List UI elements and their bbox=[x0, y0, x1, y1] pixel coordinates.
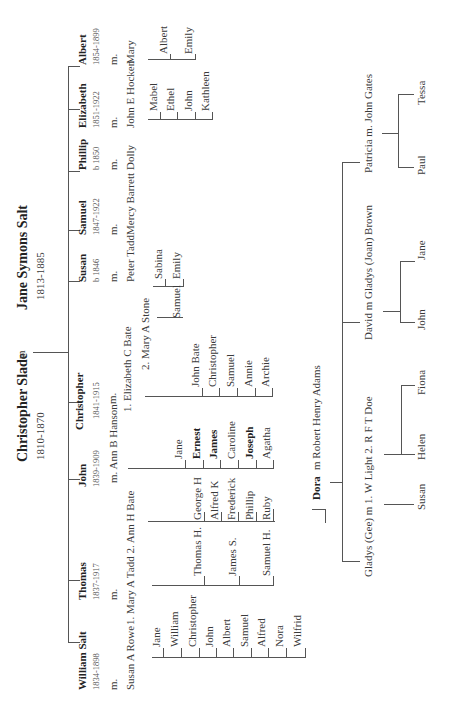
tree-connector-line bbox=[398, 167, 414, 168]
person-label-c6-m: m. bbox=[108, 159, 119, 170]
tree-connector-line bbox=[305, 648, 306, 658]
tree-connector-line bbox=[273, 460, 274, 469]
person-label-w1: William bbox=[169, 611, 180, 647]
person-label-c0-dates: 1834-1898 bbox=[92, 653, 101, 690]
person-label-c1-spouse: 1. Mary A Tadd 2. Ann H Bate bbox=[125, 491, 136, 625]
tree-connector-line bbox=[160, 112, 161, 120]
person-label-j0: Jane bbox=[173, 439, 184, 459]
person-label-t0: Thomas H. bbox=[192, 527, 203, 576]
person-label-a1: Alfred K bbox=[209, 481, 220, 520]
tree-connector-line bbox=[384, 454, 401, 455]
person-label-c4-name: Susan bbox=[77, 254, 88, 282]
tree-connector-line bbox=[128, 468, 274, 469]
person-label-root-husband: Christopher Slade bbox=[16, 353, 30, 462]
tree-connector-line bbox=[145, 396, 273, 397]
person-label-w8: Wilfrid bbox=[292, 615, 303, 647]
person-label-s0: Sabina bbox=[153, 249, 164, 279]
person-label-g-h: Helen bbox=[416, 434, 427, 460]
tree-connector-line bbox=[255, 388, 256, 397]
person-label-root-m: m bbox=[16, 350, 27, 359]
person-label-c7-name: Elizabeth bbox=[77, 83, 88, 128]
person-label-d: David m Gladys (Joan) Brown bbox=[363, 205, 374, 340]
tree-connector-line bbox=[325, 510, 326, 523]
tree-connector-line bbox=[152, 657, 306, 658]
person-label-g: Gladys (Gee) m 1. W Light 2. R F T Doe bbox=[363, 396, 374, 577]
tree-connector-line bbox=[148, 59, 195, 60]
person-label-w3: John bbox=[204, 626, 215, 647]
tree-connector-line bbox=[202, 388, 203, 397]
tree-connector-line bbox=[251, 648, 252, 658]
tree-connector-line bbox=[212, 112, 213, 120]
person-label-c8-m: m. bbox=[108, 54, 119, 65]
person-label-dora-spouse: m Robert Henry Adams bbox=[311, 365, 322, 470]
tree-connector-line bbox=[401, 385, 415, 386]
person-label-p-t: Tessa bbox=[416, 81, 427, 105]
person-label-j4: Joseph bbox=[244, 427, 255, 459]
person-label-e0: Mabel bbox=[148, 83, 159, 111]
tree-connector-line bbox=[165, 279, 166, 287]
tree-connector-line bbox=[401, 454, 415, 455]
person-label-k1: Christopher bbox=[207, 335, 218, 387]
person-label-c2-dates: 1839-1909 bbox=[92, 450, 101, 487]
tree-connector-line bbox=[342, 162, 360, 163]
person-label-c8-dates: 1854-1899 bbox=[92, 28, 101, 65]
tree-connector-line bbox=[233, 648, 234, 658]
person-label-a2: Frederick bbox=[226, 478, 237, 520]
person-label-c6-spouse: Dolly bbox=[125, 145, 136, 170]
person-label-e2: John bbox=[183, 90, 194, 111]
person-label-c4-m: m. bbox=[108, 271, 119, 282]
tree-connector-line bbox=[195, 112, 196, 120]
person-label-j5: Agatha bbox=[261, 427, 272, 459]
person-label-p: Patricia m. John Gates bbox=[363, 74, 374, 173]
person-label-p-p: Paul bbox=[416, 155, 427, 175]
tree-connector-line bbox=[181, 648, 182, 658]
tree-connector-line bbox=[400, 262, 401, 323]
tree-connector-line bbox=[400, 261, 415, 262]
person-label-c0-m: m. bbox=[108, 679, 119, 690]
tree-connector-line bbox=[68, 66, 80, 67]
person-label-g-s: Susan bbox=[416, 484, 427, 510]
person-label-c0-name: William Salt bbox=[77, 631, 88, 690]
tree-connector-line bbox=[199, 648, 200, 658]
tree-connector-line bbox=[382, 133, 398, 134]
tree-connector-line bbox=[312, 509, 326, 510]
tree-connector-line bbox=[286, 648, 287, 658]
tree-connector-line bbox=[216, 648, 217, 658]
tree-connector-line bbox=[170, 54, 171, 60]
person-label-c1-name: Thomas bbox=[77, 562, 88, 600]
tree-connector-line bbox=[342, 322, 360, 323]
tree-connector-line bbox=[239, 576, 240, 586]
person-label-k3: Annie bbox=[243, 360, 254, 387]
tree-connector-line bbox=[384, 504, 414, 505]
person-label-k4: Archie bbox=[260, 357, 271, 387]
person-label-s1: Emily bbox=[171, 252, 182, 279]
tree-connector-line bbox=[152, 585, 273, 586]
tree-connector-line bbox=[68, 171, 80, 172]
person-label-g-f: Fiona bbox=[416, 370, 427, 395]
person-label-c3-dates: 1841-1915 bbox=[92, 382, 101, 419]
tree-connector-line bbox=[204, 576, 205, 586]
tree-connector-line bbox=[273, 509, 274, 510]
person-label-c5-m: m. bbox=[108, 224, 119, 235]
person-label-a4: Ruby bbox=[261, 496, 272, 520]
tree-connector-line bbox=[268, 648, 269, 658]
tree-connector-line bbox=[182, 317, 183, 318]
person-label-j2: James bbox=[208, 430, 219, 459]
tree-connector-line bbox=[272, 388, 273, 397]
person-label-c6-dates: b 1850 bbox=[92, 147, 101, 170]
person-label-k0: John Bate bbox=[190, 343, 201, 387]
person-label-d-ja: Jane bbox=[416, 240, 427, 260]
person-label-c6-name: Phillip bbox=[77, 139, 88, 170]
tree-connector-line bbox=[203, 460, 204, 469]
tree-connector-line bbox=[221, 512, 222, 522]
person-label-w5: Samuel bbox=[239, 614, 250, 647]
person-label-c1-m: m. bbox=[108, 589, 119, 600]
tree-connector-line bbox=[400, 322, 415, 323]
person-label-e3: Kathleen bbox=[200, 71, 211, 111]
tree-connector-line bbox=[238, 460, 239, 469]
person-label-b0: Albert bbox=[158, 26, 169, 54]
tree-connector-line bbox=[383, 311, 400, 312]
person-label-c3-spouse1: 1. Elizabeth C Bate bbox=[122, 326, 133, 412]
tree-connector-line bbox=[148, 119, 212, 120]
tree-connector-line bbox=[398, 94, 414, 95]
